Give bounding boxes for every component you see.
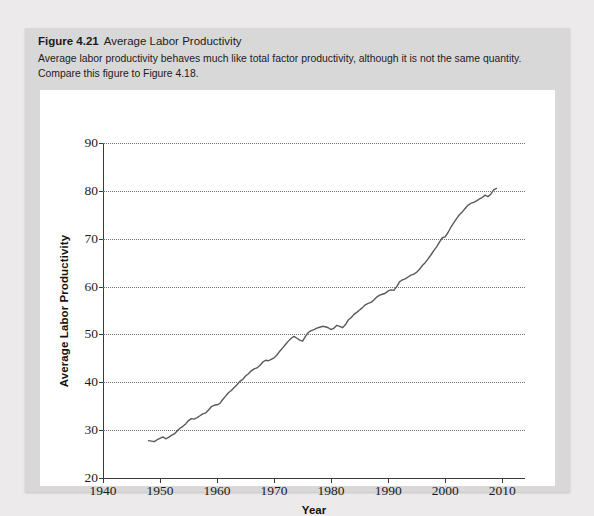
x-tick-label-1990: 1990: [375, 483, 402, 499]
figure-number: Figure 4.21: [38, 35, 99, 47]
x-axis-line: [103, 478, 525, 479]
figure-caption: Figure 4.21Average Labor Productivity Av…: [38, 34, 557, 81]
x-tick-label-1940: 1940: [90, 483, 117, 499]
y-axis-title: Average Labor Productivity: [56, 143, 72, 478]
x-tick-label-1950: 1950: [147, 483, 174, 499]
data-line-chart: [103, 143, 525, 478]
series-average-labor-productivity: [149, 188, 497, 441]
y-tick-label-70: 70: [85, 231, 99, 247]
y-tick-label-30: 30: [85, 422, 99, 438]
figure-caption-description: Average labor productivity behaves much …: [38, 52, 557, 81]
x-tick-label-2000: 2000: [432, 483, 459, 499]
plot-area: 2030405060708090 19401950196019701980199…: [103, 143, 525, 478]
plot-card: Average Labor Productivity 2030405060708…: [40, 90, 555, 486]
x-axis-title: Year: [103, 504, 525, 516]
y-axis-title-label: Average Labor Productivity: [58, 234, 70, 386]
x-tick-label-2010: 2010: [489, 483, 516, 499]
y-tick-label-80: 80: [85, 183, 99, 199]
x-tick-label-1970: 1970: [261, 483, 288, 499]
y-tick-label-40: 40: [85, 374, 99, 390]
figure-card: Figure 4.21Average Labor Productivity Av…: [25, 28, 570, 492]
y-tick-label-50: 50: [85, 326, 99, 342]
y-tick-label-90: 90: [85, 135, 99, 151]
y-tick-label-60: 60: [85, 279, 99, 295]
figure-caption-title: Figure 4.21Average Labor Productivity: [38, 34, 557, 49]
x-tick-label-1960: 1960: [204, 483, 231, 499]
figure-title: Average Labor Productivity: [104, 35, 242, 47]
x-tick-label-1980: 1980: [318, 483, 345, 499]
